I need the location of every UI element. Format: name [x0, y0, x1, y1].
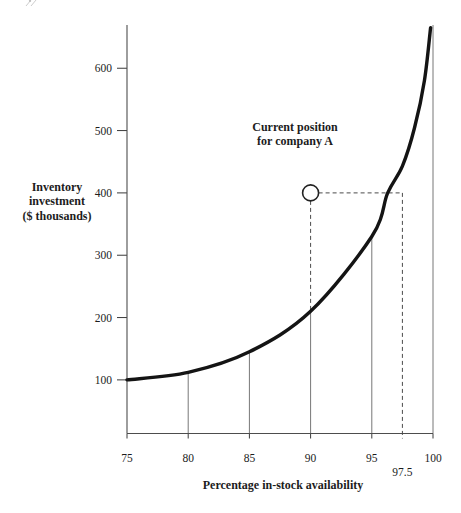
x-tick-label-75: 75 — [121, 452, 133, 464]
x-tick-label-95: 95 — [366, 452, 378, 464]
x-tick-label-100: 100 — [424, 452, 442, 464]
y-axis-title-line1: Inventory — [32, 180, 83, 194]
y-axis-title-line3: ($ thousands) — [22, 209, 91, 223]
x-tick-label-85: 85 — [244, 452, 256, 464]
x-axis-title: Percentage in-stock availability — [203, 478, 363, 492]
y-tick-label-200: 200 — [95, 312, 113, 324]
y-tick-label-300: 300 — [95, 249, 113, 261]
y-tick-label-400: 400 — [95, 187, 113, 199]
current-position-marker — [303, 185, 319, 201]
y-tick-label-100: 100 — [95, 374, 113, 386]
x-tick-label-90: 90 — [305, 452, 317, 464]
y-tick-label-600: 600 — [95, 62, 113, 74]
x-axis-ticks: 7580859095100 — [121, 434, 442, 465]
annotation-line2: for company A — [257, 134, 333, 148]
scan-artifact — [26, 0, 36, 6]
x-tick-label-80: 80 — [182, 452, 194, 464]
x-tick-label-97-5: 97.5 — [392, 466, 412, 478]
inventory-curve — [127, 28, 431, 380]
annotation-line1: Current position — [252, 120, 338, 134]
y-tick-label-500: 500 — [95, 125, 113, 137]
y-axis-ticks: 100200300400500600 — [95, 62, 127, 386]
y-axis-title-line2: investment — [29, 194, 85, 208]
inventory-availability-chart: 100200300400500600 7580859095100 Current… — [0, 0, 461, 513]
